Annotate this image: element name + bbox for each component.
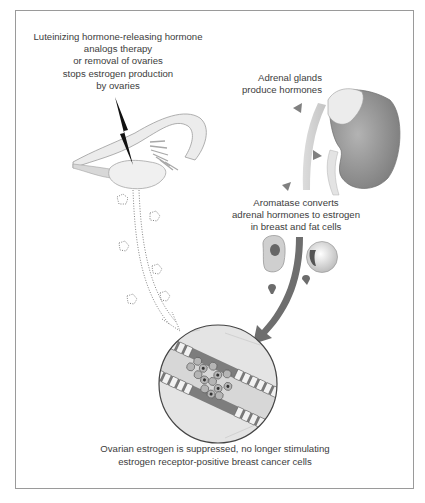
breast-cell [263,235,285,271]
lhrh-therapy-label: Luteinizing hormone-releasing hormone an… [28,31,208,92]
aromatase-label: Aromatase converts adrenal hormones to e… [226,197,366,234]
label-line: stops estrogen production [28,68,208,80]
label-line: Adrenal glands [232,72,322,84]
fat-cell [307,242,338,273]
label-line: Ovarian estrogen is suppressed, no longe… [70,442,360,455]
lightning-bolt-icon [115,97,133,165]
label-line: analogs therapy [28,43,208,55]
kidney-illustration [303,89,400,195]
label-line: in breast and fat cells [226,221,366,233]
label-line: adrenal hormones to estrogen [226,209,366,221]
dotted-arrow-suppressed [133,190,180,331]
label-line: by ovaries [28,80,208,92]
label-line: Aromatase converts [226,197,366,209]
adrenal-label: Adrenal glands produce hormones [232,72,322,96]
label-line: or removal of ovaries [28,55,208,67]
label-line: produce hormones [232,84,322,96]
suppressed-hormone-icons [117,194,170,304]
result-label: Ovarian estrogen is suppressed, no longe… [70,442,360,468]
label-line: estrogen receptor-positive breast cancer… [70,455,360,468]
ovary-illustration [73,114,206,189]
label-line: Luteinizing hormone-releasing hormone [28,31,208,43]
magnified-breast-duct [138,325,302,443]
